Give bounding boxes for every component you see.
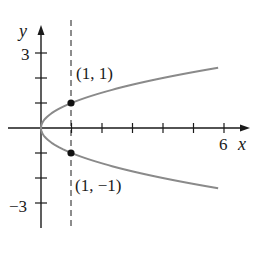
point-lower: [67, 149, 74, 156]
y-tick-label-neg3: −3: [9, 197, 27, 216]
x-axis-label: x: [237, 134, 246, 154]
x-tick-label-6: 6: [219, 135, 228, 154]
point-upper-label: (1, 1): [76, 64, 113, 83]
point-upper: [67, 99, 74, 106]
y-axis-arrow-icon: [38, 25, 45, 35]
x-axis-arrow-icon: [240, 125, 250, 132]
point-lower-label: (1, −1): [75, 176, 121, 195]
parabola-plot: y 3 −3 6 x (1, 1) (1, −1): [0, 0, 258, 255]
y-tick-label-3: 3: [21, 45, 30, 64]
x-axis: [8, 123, 250, 133]
y-axis-label: y: [17, 21, 27, 41]
